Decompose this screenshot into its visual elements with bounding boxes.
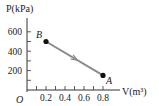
y-axis-label: P(kPa)	[6, 3, 33, 15]
x-tick-label: 0.6	[78, 93, 90, 103]
state-point-b	[43, 39, 48, 44]
x-tick-label: 0.4	[59, 93, 71, 103]
point-label-a: A	[105, 75, 113, 86]
series: BA	[36, 29, 113, 87]
pv-diagram: 0.20.40.60.8200400600 BA P(kPa) V(m³) O	[0, 0, 159, 106]
ticks: 0.20.40.60.8200400600	[8, 27, 109, 103]
y-tick-label: 200	[8, 66, 23, 76]
x-tick-label: 0.2	[40, 93, 52, 103]
state-point-a	[100, 73, 105, 78]
origin-label: O	[16, 94, 23, 105]
process-line	[46, 42, 103, 76]
x-tick-label: 0.8	[97, 93, 109, 103]
y-tick-label: 400	[8, 47, 23, 57]
x-axis-label: V(m³)	[122, 86, 147, 98]
y-tick-label: 600	[8, 27, 23, 37]
point-label-b: B	[36, 29, 42, 40]
